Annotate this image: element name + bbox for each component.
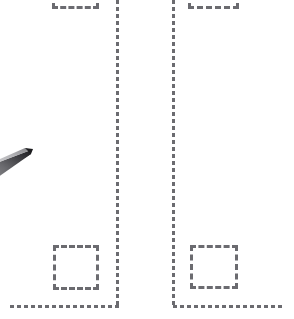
right-horizontal-baseline-guide [173,305,284,308]
left-top-dashed-box [52,0,99,9]
left-horizontal-baseline-guide [10,305,119,308]
right-top-dashed-box [188,0,239,9]
right-vertical-guide-line [172,0,175,308]
wireframe-canvas [0,0,294,319]
left-vertical-guide-line [116,0,119,308]
right-inner-dashed-square [190,245,238,289]
pointer-tip-icon [0,142,50,184]
pointer-tip-container [0,142,50,184]
left-inner-dashed-square [53,245,99,290]
